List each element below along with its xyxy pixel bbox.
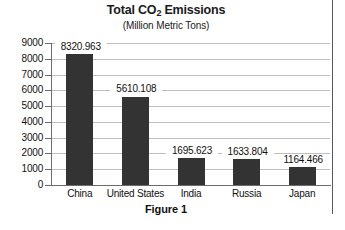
- y-axis-tick-label: 1000: [1, 164, 43, 174]
- bar-value-label: 5610.108: [110, 84, 162, 94]
- gridline: [52, 59, 330, 60]
- gridline: [52, 90, 330, 91]
- bar-value-label: 1695.623: [166, 146, 218, 156]
- y-axis-tick-labels: 9000800070006000500040003000200010000: [0, 0, 43, 230]
- y-axis-tick-label: 2000: [1, 148, 43, 158]
- y-axis-tick-label: 4000: [1, 117, 43, 127]
- y-axis-tick-label: 5000: [1, 101, 43, 111]
- bar: [66, 54, 93, 185]
- chart-title: Total CO2 Emissions: [0, 3, 332, 19]
- bar: [233, 159, 260, 185]
- bar: [178, 158, 205, 185]
- figure-caption: Figure 1: [0, 203, 332, 215]
- y-axis-tick-label: 7000: [1, 70, 43, 80]
- figure-border-right: [332, 0, 333, 214]
- chart-title-text-before: Total CO: [107, 3, 157, 17]
- figure-container: Total CO2 Emissions (Million Metric Tons…: [0, 0, 345, 230]
- y-axis-tick-label: 3000: [1, 133, 43, 143]
- gridline: [52, 122, 330, 123]
- chart-subtitle: (Million Metric Tons): [0, 19, 332, 32]
- y-axis-tick-label: 9000: [1, 38, 43, 48]
- gridline: [52, 75, 330, 76]
- gridline: [52, 138, 330, 139]
- gridline: [52, 106, 330, 107]
- bar-value-label: 1164.466: [277, 155, 329, 165]
- chart-title-subscript: 2: [156, 8, 161, 18]
- bar: [122, 97, 149, 186]
- bar-value-label: 8320.963: [55, 42, 107, 52]
- y-axis-tick-label: 8000: [1, 54, 43, 64]
- y-axis-tick-label: 6000: [1, 85, 43, 95]
- bar-value-label: 1633.804: [222, 147, 274, 157]
- y-axis-tick-label: 0: [1, 180, 43, 190]
- chart-title-text-after: Emissions: [161, 3, 225, 17]
- plot-area: 8320.9635610.1081695.6231633.8041164.466: [52, 43, 330, 185]
- x-axis-category-label: Japan: [262, 188, 342, 199]
- bar: [289, 167, 316, 185]
- chart-title-block: Total CO2 Emissions (Million Metric Tons…: [0, 3, 332, 32]
- x-axis-line: [45, 185, 331, 186]
